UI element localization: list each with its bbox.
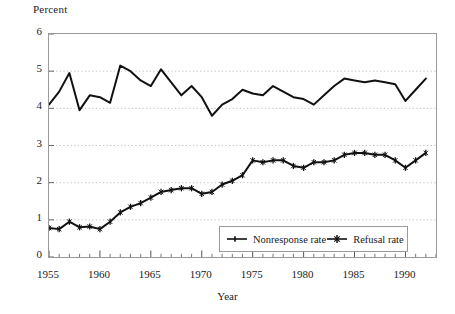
- y-tick-label-5: 5: [22, 62, 42, 74]
- legend-marker-star-icon: [326, 234, 348, 244]
- series-refusal-rate: [49, 150, 428, 232]
- legend-item-refusal-rate: Refusal rate: [326, 234, 403, 245]
- x-tick-label-1980: 1980: [283, 268, 323, 280]
- x-axis-title: Year: [0, 290, 455, 302]
- x-tick-label-1960: 1960: [79, 268, 119, 280]
- x-tick-label-1990: 1990: [384, 268, 424, 280]
- x-tick-label-1955: 1955: [28, 268, 68, 280]
- y-tick-label-6: 6: [22, 25, 42, 37]
- series-nonresponse-rate: [49, 66, 426, 116]
- chart-legend: Nonresponse rate Refusal rate: [219, 226, 408, 252]
- y-tick-label-4: 4: [22, 99, 42, 111]
- legend-marker-dash-icon: [226, 234, 248, 244]
- y-axis-title: Percent: [33, 3, 67, 15]
- chart-container: Percent 0123456 195519601965197019751980…: [0, 0, 455, 314]
- x-tick-label-1985: 1985: [334, 268, 374, 280]
- y-tick-label-0: 0: [22, 248, 42, 260]
- x-tick-label-1970: 1970: [181, 268, 221, 280]
- y-tick-label-1: 1: [22, 211, 42, 223]
- x-tick-label-1975: 1975: [232, 268, 272, 280]
- y-tick-label-3: 3: [22, 137, 42, 149]
- gridlines: [49, 71, 436, 220]
- y-axis-ticks: [49, 34, 54, 257]
- x-tick-label-1965: 1965: [130, 268, 170, 280]
- chart-svg: [49, 34, 436, 257]
- legend-label-refusal-rate: Refusal rate: [353, 234, 403, 245]
- legend-item-nonresponse-rate: Nonresponse rate: [226, 234, 326, 245]
- plot-area: [48, 33, 437, 258]
- data-series-layer: [49, 66, 428, 233]
- legend-label-nonresponse-rate: Nonresponse rate: [253, 234, 326, 245]
- y-tick-label-2: 2: [22, 174, 42, 186]
